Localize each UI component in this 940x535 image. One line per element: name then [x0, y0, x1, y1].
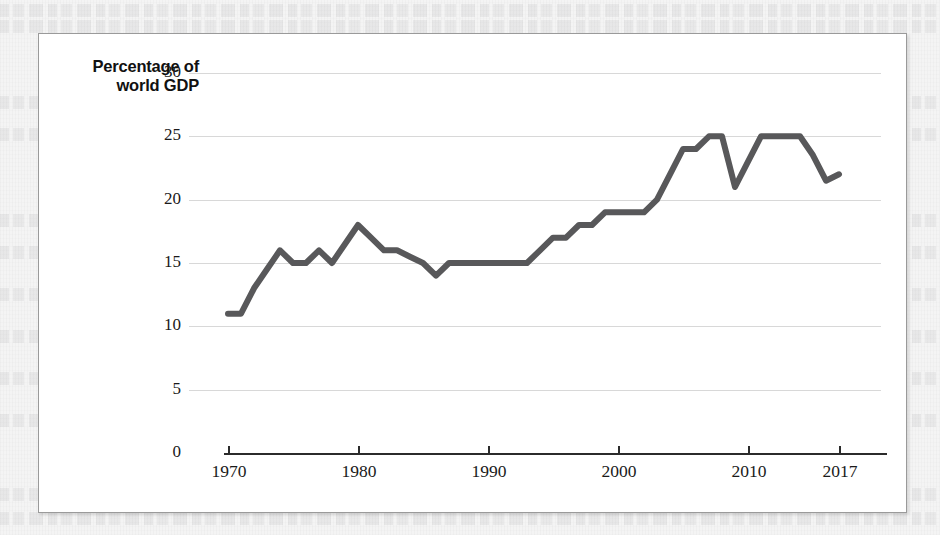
plot-area: Percentage of world GDP 302520151050 197…: [39, 34, 908, 514]
chart-card: Percentage of world GDP 302520151050 197…: [38, 33, 907, 513]
ghost-text-line: [0, 20, 940, 33]
scanned-page: Percentage of world GDP 302520151050 197…: [0, 0, 940, 535]
series-polyline: [228, 136, 839, 313]
series-line-gdp: [39, 34, 908, 514]
ghost-text-line: [0, 4, 940, 17]
